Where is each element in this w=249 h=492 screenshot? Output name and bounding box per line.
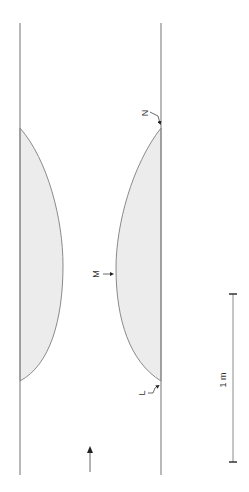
- label-l-group: L: [137, 386, 158, 396]
- label-n: N: [140, 110, 150, 117]
- diagram-canvas: N M L 1 m: [0, 0, 249, 492]
- label-m-group: M: [91, 270, 112, 278]
- flow-arrow-icon: [87, 446, 93, 472]
- scale-label: 1 m: [218, 372, 228, 387]
- right-deposit: [116, 128, 161, 381]
- label-l: L: [137, 390, 147, 395]
- scale-bar: 1 m: [218, 294, 237, 462]
- label-m: M: [91, 270, 101, 278]
- label-n-group: N: [140, 110, 160, 123]
- left-deposit: [20, 128, 63, 381]
